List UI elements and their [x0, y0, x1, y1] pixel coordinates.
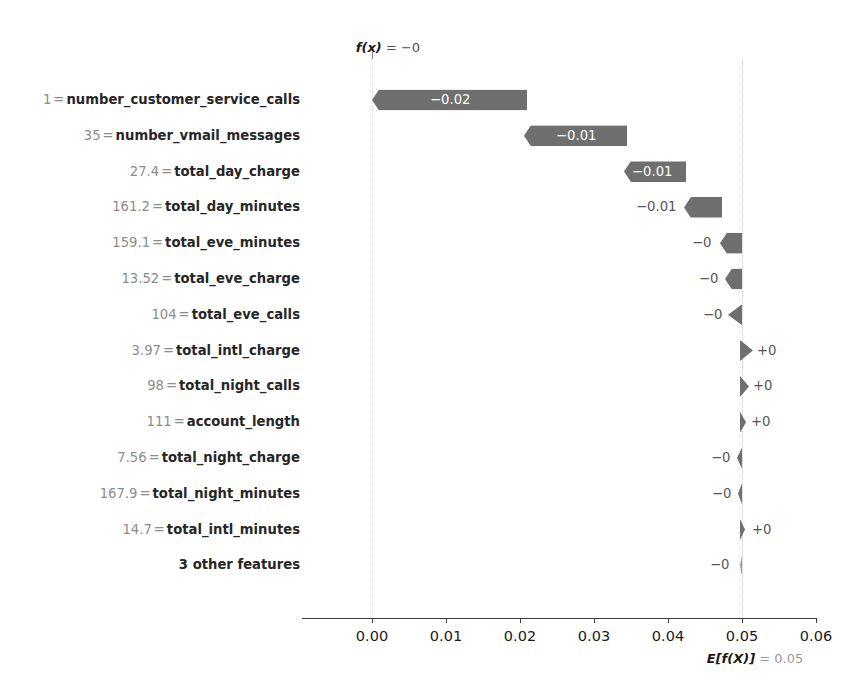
- fx-annotation: f(x) = −0: [356, 41, 420, 54]
- waterfall-bar[interactable]: [684, 197, 722, 218]
- bar-value-label: −0.01: [556, 129, 596, 142]
- bar-value-label: −0: [703, 308, 722, 321]
- bar-value-label: −0: [710, 559, 729, 572]
- feature-name: total_eve_calls: [192, 307, 300, 322]
- x-axis-tick-label: 0.02: [504, 629, 536, 644]
- x-axis-tick-label: 0.05: [726, 629, 758, 644]
- x-axis-tick: [594, 618, 595, 623]
- fx-annotation-value: −0: [401, 40, 420, 55]
- row-label: 104=total_eve_calls: [151, 308, 300, 321]
- equals-sign: =: [150, 200, 165, 215]
- waterfall-bar[interactable]: [737, 448, 742, 469]
- bar-value-label: −0: [699, 272, 718, 285]
- fx-reference-line: [372, 58, 373, 618]
- row-label: 161.2=total_day_minutes: [112, 201, 300, 214]
- equals-sign: =: [152, 522, 167, 537]
- row-label: 27.4=total_day_charge: [130, 165, 300, 178]
- x-axis-tick: [816, 618, 817, 623]
- shap-waterfall-plot: f(x) = −0 1=number_customer_service_call…: [0, 0, 863, 685]
- equals-sign: =: [147, 450, 162, 465]
- feature-value: 13.52: [121, 271, 159, 286]
- waterfall-bar[interactable]: [728, 304, 742, 325]
- bar-value-label: +0: [753, 380, 772, 393]
- row-label: 3 other features: [175, 559, 300, 572]
- feature-value: 104: [151, 307, 176, 322]
- bar-value-label: −0.01: [632, 165, 672, 178]
- x-axis-tick-label: 0.03: [578, 629, 610, 644]
- bar-value-label: +0: [757, 344, 776, 357]
- feature-name: total_intl_minutes: [167, 522, 300, 537]
- equals-sign: =: [159, 271, 174, 286]
- bar-value-label: +0: [752, 523, 771, 536]
- fx-annotation-eq: =: [382, 40, 401, 55]
- feature-value: 159.1: [112, 236, 150, 251]
- feature-value: 7.56: [117, 450, 146, 465]
- efx-annotation-label: E[f(X)]: [707, 651, 755, 666]
- waterfall-bar[interactable]: [740, 555, 742, 576]
- feature-name: total_night_charge: [162, 450, 300, 465]
- bar-value-label: +0: [751, 416, 770, 429]
- row-label: 14.7=total_intl_minutes: [122, 523, 300, 536]
- waterfall-bar[interactable]: [738, 483, 742, 504]
- waterfall-bar[interactable]: [740, 376, 749, 397]
- equals-sign: =: [164, 379, 179, 394]
- feature-value: 98: [147, 379, 164, 394]
- bar-value-label: −0: [692, 237, 711, 250]
- feature-value: 14.7: [122, 522, 151, 537]
- feature-name: total_day_minutes: [165, 200, 300, 215]
- x-axis-tick: [372, 618, 373, 623]
- efx-annotation-eq: =: [755, 651, 774, 666]
- x-axis-line: [302, 618, 816, 619]
- efx-annotation: E[f(X)] = 0.05: [707, 652, 803, 665]
- equals-sign: =: [161, 343, 176, 358]
- x-axis-tick-label: 0.06: [800, 629, 832, 644]
- feature-name: total_night_calls: [179, 379, 300, 394]
- equals-sign: =: [172, 415, 187, 430]
- x-axis-tick-label: 0.04: [652, 629, 684, 644]
- feature-name: number_vmail_messages: [116, 128, 300, 143]
- x-axis-tick: [446, 618, 447, 623]
- bar-value-label: −0.01: [636, 201, 676, 214]
- row-label: 13.52=total_eve_charge: [121, 272, 300, 285]
- row-label: 111=account_length: [147, 416, 301, 429]
- feature-name: total_eve_minutes: [165, 236, 300, 251]
- feature-value: 161.2: [112, 200, 150, 215]
- x-axis-tick: [668, 618, 669, 623]
- fx-annotation-label: f(x): [356, 40, 382, 55]
- bar-value-label: −0.02: [430, 93, 470, 106]
- feature-value: 3.97: [132, 343, 161, 358]
- feature-name: total_night_minutes: [153, 486, 300, 501]
- row-label: 167.9=total_night_minutes: [100, 487, 300, 500]
- equals-sign: =: [159, 164, 174, 179]
- feature-value: 35: [84, 128, 101, 143]
- equals-sign: =: [137, 486, 152, 501]
- feature-name: total_day_charge: [174, 164, 300, 179]
- feature-value: 27.4: [130, 164, 159, 179]
- row-label: 35=number_vmail_messages: [84, 129, 300, 142]
- feature-name: account_length: [187, 415, 300, 430]
- row-label: 3.97=total_intl_charge: [132, 344, 300, 357]
- row-label: 159.1=total_eve_minutes: [112, 237, 300, 250]
- feature-value: 167.9: [100, 486, 138, 501]
- row-label: 7.56=total_night_charge: [117, 451, 300, 464]
- waterfall-bar[interactable]: [720, 233, 742, 254]
- waterfall-bar[interactable]: [725, 269, 742, 290]
- feature-value: 111: [147, 415, 172, 430]
- x-axis-tick: [520, 618, 521, 623]
- feature-name: number_customer_service_calls: [66, 92, 300, 107]
- efx-annotation-value: 0.05: [774, 651, 803, 666]
- row-label: 1=number_customer_service_calls: [43, 93, 300, 106]
- feature-name: total_eve_charge: [174, 271, 300, 286]
- waterfall-bar[interactable]: [740, 340, 753, 361]
- waterfall-bar[interactable]: [740, 412, 746, 433]
- equals-sign: =: [51, 92, 66, 107]
- row-label: 98=total_night_calls: [147, 380, 300, 393]
- feature-name: total_intl_charge: [176, 343, 300, 358]
- x-axis-tick-label: 0.00: [356, 629, 388, 644]
- bar-value-label: −0: [712, 487, 731, 500]
- equals-sign: =: [150, 236, 165, 251]
- feature-name: 3 other features: [179, 558, 300, 573]
- equals-sign: =: [101, 128, 116, 143]
- bar-value-label: −0: [711, 451, 730, 464]
- x-axis-tick: [742, 618, 743, 623]
